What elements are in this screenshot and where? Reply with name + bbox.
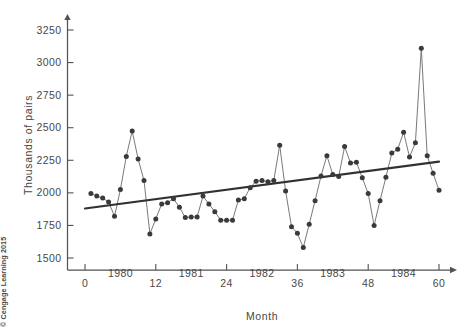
trend-line-group xyxy=(85,162,439,209)
data-markers-group xyxy=(88,46,441,250)
data-point-marker xyxy=(112,214,117,219)
data-point-marker xyxy=(425,153,430,158)
data-series-polyline xyxy=(91,48,439,247)
x-axis-tick-label: 36 xyxy=(291,277,303,289)
data-point-marker xyxy=(389,151,394,156)
data-point-marker xyxy=(307,222,312,227)
x-axis-year-label: 1983 xyxy=(320,267,345,279)
data-point-marker xyxy=(100,196,105,201)
data-point-marker xyxy=(283,188,288,193)
axes-group xyxy=(64,14,457,273)
x-axis-year-label: 1984 xyxy=(391,267,416,279)
figure-container: 1500175020002250250027503000325001224364… xyxy=(0,0,465,331)
x-axis-year-label: 1980 xyxy=(108,267,133,279)
data-point-marker xyxy=(395,147,400,152)
data-point-marker xyxy=(248,185,253,190)
data-point-marker xyxy=(431,171,436,176)
data-point-marker xyxy=(206,201,211,206)
data-point-marker xyxy=(342,144,347,149)
data-point-marker xyxy=(130,128,135,133)
y-axis-title: Thousands of pairs xyxy=(22,95,34,195)
data-point-marker xyxy=(147,231,152,236)
x-axis-tick-label: 60 xyxy=(433,277,445,289)
data-point-marker xyxy=(260,178,265,183)
data-point-marker xyxy=(289,224,294,229)
data-point-marker xyxy=(348,160,353,165)
data-point-marker xyxy=(378,198,383,203)
data-point-marker xyxy=(124,154,129,159)
data-point-marker xyxy=(277,143,282,148)
data-point-marker xyxy=(324,153,329,158)
copyright-credit: © Cengage Learning 2015 xyxy=(1,177,15,327)
data-point-marker xyxy=(383,175,388,180)
y-axis-tick-label: 2750 xyxy=(37,89,62,101)
data-point-marker xyxy=(413,140,418,145)
data-point-marker xyxy=(301,245,306,250)
y-axis-arrow xyxy=(64,14,70,20)
data-point-marker xyxy=(153,216,158,221)
data-point-marker xyxy=(372,223,377,228)
data-point-marker xyxy=(230,218,235,223)
y-axis-tick-label: 1500 xyxy=(37,252,62,264)
axis-labels-group: 1500175020002250250027503000325001224364… xyxy=(22,24,445,322)
data-point-marker xyxy=(88,191,93,196)
x-axis-title: Month xyxy=(246,310,278,322)
y-axis-tick-label: 2250 xyxy=(37,154,62,166)
x-axis-tick-label: 48 xyxy=(362,277,374,289)
data-point-marker xyxy=(159,201,164,206)
x-axis-tick-label: 0 xyxy=(82,277,88,289)
y-axis-tick-label: 1750 xyxy=(37,219,62,231)
data-point-marker xyxy=(189,214,194,219)
data-point-marker xyxy=(142,178,147,183)
data-point-marker xyxy=(271,178,276,183)
y-axis-tick-label: 2000 xyxy=(37,186,62,198)
data-point-marker xyxy=(407,155,412,160)
data-point-marker xyxy=(236,198,241,203)
data-point-marker xyxy=(201,194,206,199)
data-point-marker xyxy=(401,130,406,135)
y-axis-tick-label: 3250 xyxy=(37,24,62,36)
data-point-marker xyxy=(319,173,324,178)
data-point-marker xyxy=(336,174,341,179)
y-axis-tick-label: 3000 xyxy=(37,56,62,68)
x-axis-year-label: 1982 xyxy=(250,267,275,279)
data-point-marker xyxy=(165,200,170,205)
data-point-marker xyxy=(224,218,229,223)
data-point-marker xyxy=(254,179,259,184)
time-series-chart: 1500175020002250250027503000325001224364… xyxy=(0,0,465,331)
data-point-marker xyxy=(183,215,188,220)
data-point-marker xyxy=(265,179,270,184)
y-axis-tick-label: 2500 xyxy=(37,121,62,133)
data-point-marker xyxy=(330,172,335,177)
data-point-marker xyxy=(94,194,99,199)
copyright-text: © Cengage Learning 2015 xyxy=(0,237,8,327)
data-point-marker xyxy=(437,188,442,193)
data-point-marker xyxy=(171,196,176,201)
data-point-marker xyxy=(136,156,141,161)
data-point-marker xyxy=(118,187,123,192)
data-point-marker xyxy=(354,160,359,165)
data-point-marker xyxy=(295,231,300,236)
data-point-marker xyxy=(419,46,424,51)
data-point-marker xyxy=(195,214,200,219)
trend-line xyxy=(85,162,439,209)
data-point-marker xyxy=(313,198,318,203)
data-point-marker xyxy=(106,199,111,204)
data-point-marker xyxy=(360,175,365,180)
x-axis-year-label: 1981 xyxy=(179,267,204,279)
data-point-marker xyxy=(212,209,217,214)
data-point-marker xyxy=(366,191,371,196)
x-axis-arrow xyxy=(450,267,457,273)
data-point-marker xyxy=(177,205,182,210)
x-axis-tick-label: 12 xyxy=(150,277,162,289)
data-point-marker xyxy=(242,196,247,201)
x-axis-tick-label: 24 xyxy=(220,277,232,289)
data-point-marker xyxy=(218,218,223,223)
series-group xyxy=(91,48,439,247)
